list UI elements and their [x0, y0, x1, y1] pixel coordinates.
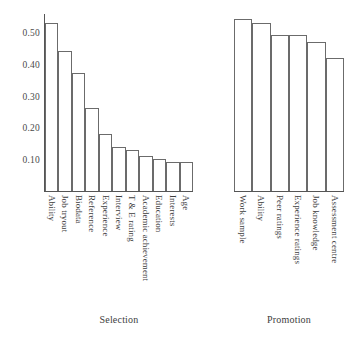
bar: [99, 134, 112, 191]
category-label-slot: Interview: [112, 194, 125, 294]
bar: [166, 162, 179, 191]
bar: [307, 42, 325, 191]
category-label-slot: T & E rating: [126, 194, 139, 294]
category-label: Biodata: [74, 195, 84, 224]
y-axis-tick-0-50: 0.50: [0, 28, 40, 38]
bar: [112, 147, 125, 192]
category-label: Assessment centre: [330, 195, 340, 263]
bar: [271, 35, 289, 191]
category-label: Experience ratings: [293, 195, 303, 264]
category-labels-selection: AbilityJob tryoutBiodataReferenceExperie…: [45, 194, 193, 294]
y-axis-tick-0-40: 0.40: [0, 60, 40, 70]
category-label-slot: Work sample: [234, 194, 252, 294]
category-label: Peer ratings: [275, 195, 285, 239]
x-axis-line-selection: [45, 191, 193, 192]
panel-caption-promotion: Promotion: [234, 314, 344, 325]
category-label-slot: Peer ratings: [271, 194, 289, 294]
panel-promotion: [234, 14, 344, 192]
category-label: Experience: [101, 195, 111, 236]
bar: [126, 150, 139, 191]
category-label-slot: Age: [180, 194, 193, 294]
y-axis-tick-0-30: 0.30: [0, 92, 40, 102]
category-label: Academic achievement: [141, 195, 151, 281]
category-label-slot: Assessment centre: [326, 194, 344, 294]
bar: [72, 73, 85, 191]
bar: [45, 23, 58, 191]
category-label-slot: Education: [153, 194, 166, 294]
category-label-slot: Ability: [252, 194, 270, 294]
category-label: T & E rating: [127, 195, 137, 242]
category-label: Education: [154, 195, 164, 232]
category-label: Reference: [87, 195, 97, 232]
category-label-slot: Biodata: [72, 194, 85, 294]
category-label-slot: Reference: [85, 194, 98, 294]
category-label: Interests: [168, 195, 178, 226]
category-label: Interview: [114, 195, 124, 230]
y-axis-tick-0-20: 0.20: [0, 123, 40, 133]
bar: [326, 58, 344, 192]
category-label: Work sample: [238, 195, 248, 244]
category-label: Job tryout: [60, 195, 70, 232]
category-label-slot: Ability: [45, 194, 58, 294]
bar-group-selection: [45, 14, 193, 191]
bar: [234, 19, 252, 191]
panel-selection: [45, 14, 193, 192]
bar: [153, 159, 166, 191]
x-axis-line-promotion: [234, 191, 344, 192]
bar: [252, 23, 270, 191]
bar-group-promotion: [234, 14, 344, 191]
category-label: Age: [181, 195, 191, 210]
category-label: Job knowledge: [311, 195, 321, 251]
bar: [139, 156, 152, 191]
category-label-slot: Interests: [166, 194, 179, 294]
panel-caption-selection: Selection: [45, 314, 193, 325]
category-label: Ability: [256, 195, 266, 221]
category-label-slot: Experience ratings: [289, 194, 307, 294]
category-label-slot: Job tryout: [58, 194, 71, 294]
bar: [85, 108, 98, 191]
category-label-slot: Experience: [99, 194, 112, 294]
y-axis-tick-0-10: 0.10: [0, 155, 40, 165]
category-label-slot: Job knowledge: [307, 194, 325, 294]
chart-page: 0.500.400.300.200.10 AbilityJob tryoutBi…: [0, 0, 345, 343]
category-label: Ability: [47, 195, 57, 221]
bar: [289, 35, 307, 191]
bar: [180, 162, 193, 191]
category-labels-promotion: Work sampleAbilityPeer ratingsExperience…: [234, 194, 344, 294]
category-label-slot: Academic achievement: [139, 194, 152, 294]
bar: [58, 51, 71, 191]
